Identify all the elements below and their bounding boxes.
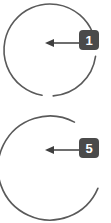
callout-badge-1[interactable]: 1 — [79, 30, 99, 50]
parts-callout-diagram: 1 5 — [0, 0, 111, 223]
diagram-canvas: 1 5 — [0, 0, 111, 223]
callout-badge-5[interactable]: 5 — [79, 138, 99, 158]
callout-badge-label-1: 1 — [85, 33, 92, 48]
callout-badge-label-5: 5 — [85, 141, 92, 156]
